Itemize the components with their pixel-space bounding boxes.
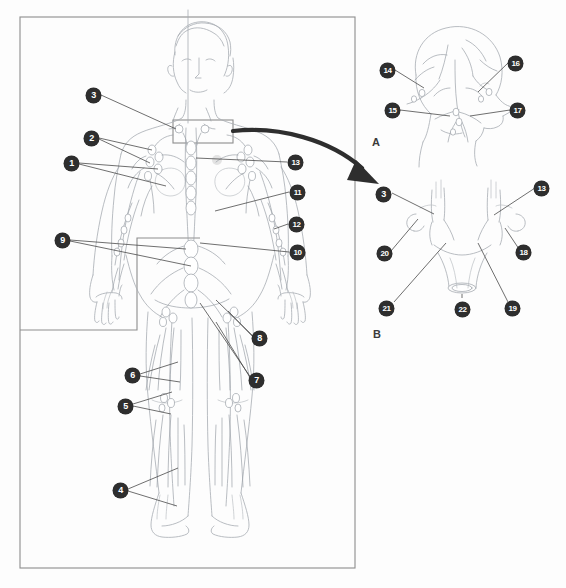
marker-3[interactable]: 3 xyxy=(86,88,101,103)
body-outline xyxy=(90,10,311,537)
marker-b-18[interactable]: 18 xyxy=(516,245,531,260)
marker-11[interactable]: 11 xyxy=(290,185,305,200)
marker-14[interactable]: 14 xyxy=(380,63,395,78)
marker-b-19[interactable]: 19 xyxy=(505,301,520,316)
marker-b-21[interactable]: 21 xyxy=(379,301,394,316)
marker-1[interactable]: 1 xyxy=(64,156,79,171)
marker-b-22[interactable]: 22 xyxy=(455,302,470,317)
marker-8[interactable]: 8 xyxy=(252,331,267,346)
panel-label-a: A xyxy=(372,136,380,148)
marker-b-3[interactable]: 3 xyxy=(376,187,391,202)
anatomy-line-art: .ln{fill:none;stroke:#a7acb2;stroke-widt… xyxy=(0,0,566,588)
marker-6[interactable]: 6 xyxy=(125,368,140,383)
marker-5[interactable]: 5 xyxy=(118,399,133,414)
marker-16[interactable]: 16 xyxy=(508,56,523,71)
marker-b-13[interactable]: 13 xyxy=(534,181,549,196)
marker-2[interactable]: 2 xyxy=(84,131,99,146)
panel-label-b: B xyxy=(373,328,381,340)
lymphatic-vessel-network xyxy=(103,108,297,519)
panel-a-head-artwork xyxy=(395,27,512,167)
marker-17[interactable]: 17 xyxy=(510,103,525,118)
marker-15[interactable]: 15 xyxy=(385,103,400,118)
marker-12[interactable]: 12 xyxy=(289,217,304,232)
marker-9[interactable]: 9 xyxy=(55,233,70,248)
marker-b-20[interactable]: 20 xyxy=(377,246,392,261)
marker-4[interactable]: 4 xyxy=(113,483,128,498)
main-panel-frame xyxy=(20,17,355,568)
marker-13[interactable]: 13 xyxy=(288,155,303,170)
figure-canvas: .ln{fill:none;stroke:#a7acb2;stroke-widt… xyxy=(0,0,566,588)
panel-b-duct-artwork xyxy=(391,180,535,302)
marker-7[interactable]: 7 xyxy=(249,373,264,388)
marker-10[interactable]: 10 xyxy=(290,245,305,260)
